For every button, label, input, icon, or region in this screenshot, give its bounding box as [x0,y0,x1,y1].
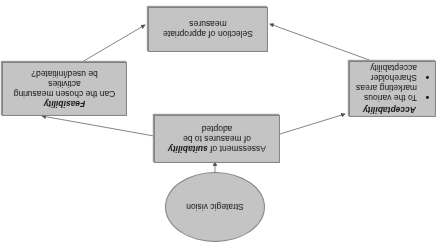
selection-node: Selection of appropriate measures [148,7,268,52]
acceptability-bullet: Shareholder acceptability [350,63,417,83]
feasibility-line1: Can the chosen measuring [14,89,116,99]
suitability-keyword: suitability [168,144,208,154]
strategic-vision-node: Strategic vision [165,172,265,242]
selection-line1: Selection of appropriate [163,30,253,40]
acceptability-list: To the various marketing areas Sharehold… [350,63,429,103]
suitability-line1: Assessment of [208,144,266,154]
acceptability-bullet: To the various marketing areas [350,83,417,103]
acceptability-node: Acceptability To the various marketing a… [349,61,436,117]
selection-line2: measures [189,20,226,30]
feasibility-line3: be used/initiated? [31,69,98,79]
suitability-line2: of measures to be [183,134,251,144]
feasibility-line2: activities [48,79,81,89]
feasibility-title: Feasibility [44,99,86,109]
suitability-line3: adopted [202,124,233,134]
diagram-canvas: Strategic vision Assessment of suitabili… [0,0,437,242]
acceptability-title: Acceptability [363,105,416,115]
feasibility-node: Feasibility Can the chosen measuring act… [2,62,127,116]
suitability-node: Assessment of suitability of measures to… [154,115,280,163]
strategic-vision-label: Strategic vision [186,202,244,212]
